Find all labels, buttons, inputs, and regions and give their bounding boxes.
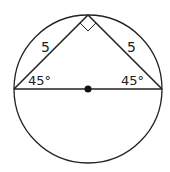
right-side-label: 5: [127, 39, 136, 55]
center-point: [85, 86, 92, 93]
left-angle-label: 45°: [28, 73, 51, 88]
right-angle-label: 45°: [121, 73, 144, 88]
circle-diagram: 5 5 45° 45°: [0, 0, 170, 172]
right-angle-marker: [80, 23, 96, 31]
left-side-label: 5: [41, 39, 50, 55]
